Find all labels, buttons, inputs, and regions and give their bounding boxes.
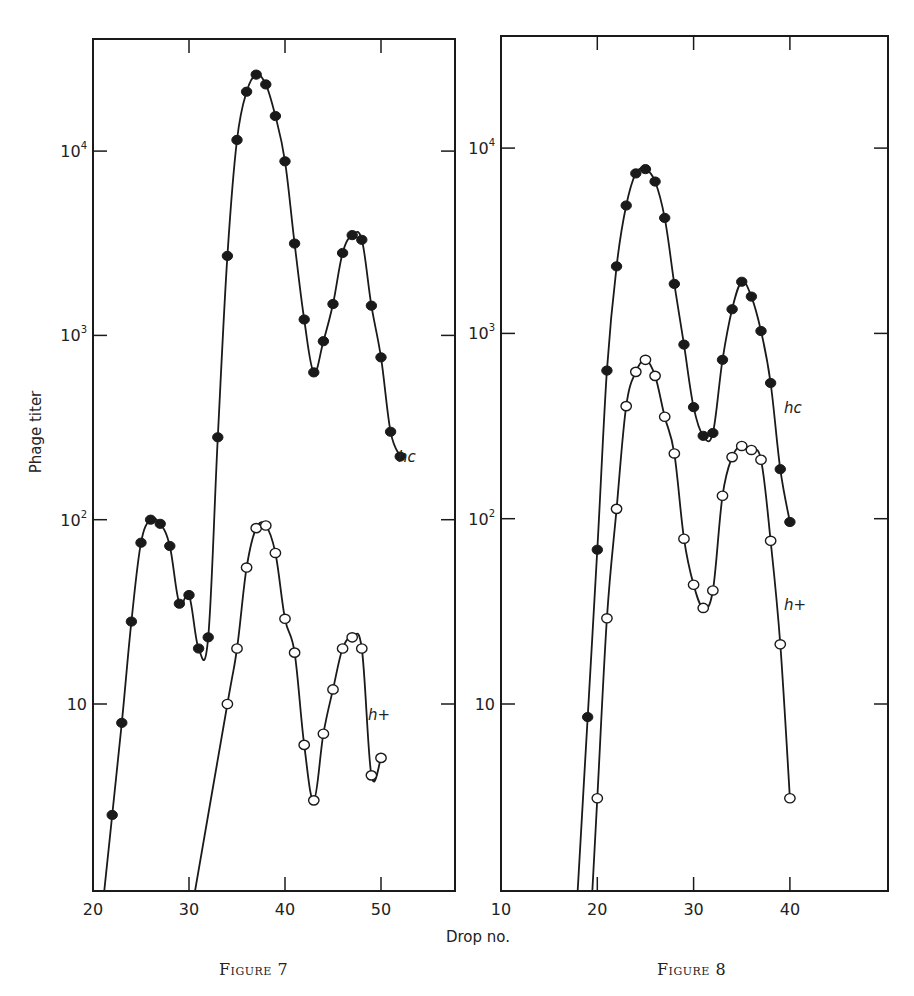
y-tick-label: 104 [60,140,87,161]
y-axis-title: Phage titer [27,390,45,473]
open-data-point [669,449,679,458]
open-data-point [727,452,737,461]
figure-8-caption: Figure 8 [657,960,726,979]
filled-data-point [289,239,299,248]
series-line-h+ [592,360,790,901]
filled-data-point [184,590,194,599]
filled-data-point [669,279,679,288]
open-data-point [280,614,290,623]
open-data-point [756,455,766,464]
open-data-point [347,633,357,642]
filled-data-point [640,165,650,174]
open-data-point [621,402,631,411]
filled-data-point [602,366,612,375]
filled-data-point [222,251,232,260]
filled-data-point [126,617,136,626]
filled-data-point [270,111,280,120]
filled-data-point [165,541,175,550]
figure-7-plot: 2030405010102103104hch+ [60,39,455,919]
x-tick-label: 30 [683,900,703,919]
series-line-h+ [193,522,381,901]
filled-data-point [717,355,727,364]
filled-data-point [261,80,271,89]
open-data-point [765,536,775,545]
open-data-point [660,412,670,421]
filled-data-point [660,213,670,222]
filled-data-point [299,315,309,324]
filled-data-point [746,292,756,301]
x-tick-label: 30 [179,900,199,919]
y-tick-label: 10 [475,695,495,714]
open-data-point [775,640,785,649]
open-data-point [717,491,727,500]
filled-data-point [232,135,242,144]
open-data-point [688,580,698,589]
x-axis-title: Drop no. [446,928,510,946]
x-tick-label: 40 [780,900,800,919]
open-data-point [318,729,328,738]
filled-data-point [650,177,660,186]
open-data-point [592,794,602,803]
filled-data-point [117,718,127,727]
y-tick-label: 103 [60,324,87,345]
filled-data-point [318,337,328,346]
filled-data-point [592,545,602,554]
filled-data-point [213,433,223,442]
y-tick-label: 102 [60,509,87,530]
filled-data-point [309,368,319,377]
open-data-point [309,796,319,805]
figure-8-plot: 1020304010102103104hch+ [468,36,888,919]
open-data-point [222,699,232,708]
filled-data-point [145,515,155,524]
filled-data-point [582,712,592,721]
filled-data-point [376,353,386,362]
filled-data-point [765,378,775,387]
open-data-point [261,521,271,530]
series-label: hc [784,399,803,417]
open-data-point [679,534,689,543]
open-data-point [366,771,376,780]
filled-data-point [174,599,184,608]
filled-data-point [708,428,718,437]
filled-data-point [241,87,251,96]
open-data-point [708,586,718,595]
open-data-point [737,441,747,450]
open-data-point [270,548,280,557]
open-data-point [785,794,795,803]
figure-7-caption: Figure 7 [219,960,288,979]
filled-data-point [280,157,290,166]
filled-data-point [785,517,795,526]
filled-data-point [621,201,631,210]
x-tick-label: 10 [491,900,511,919]
x-tick-label: 40 [275,900,295,919]
filled-data-point [155,519,165,528]
figure-plots: 2030405010102103104hch+ 1020304010102103… [0,0,914,996]
open-data-point [232,644,242,653]
filled-data-point [357,235,367,244]
open-data-point [640,355,650,364]
filled-data-point [688,403,698,412]
plot-frame [501,36,888,891]
series-line-hc [103,74,400,901]
filled-data-point [631,169,641,178]
filled-data-point [251,70,261,79]
series-label: h+ [368,706,390,724]
series-label: hc [398,448,417,466]
y-tick-label: 102 [468,508,495,529]
filled-data-point [337,248,347,257]
open-data-point [602,614,612,623]
filled-data-point [385,427,395,436]
open-data-point [357,644,367,653]
filled-data-point [366,301,376,310]
filled-data-point [698,431,708,440]
filled-data-point [203,633,213,642]
open-data-point [650,371,660,380]
filled-data-point [347,231,357,240]
y-tick-label: 104 [468,137,495,158]
filled-data-point [136,538,146,547]
open-data-point [746,445,756,454]
open-data-point [241,563,251,572]
open-data-point [299,740,309,749]
open-data-point [251,524,261,533]
filled-data-point [328,299,338,308]
